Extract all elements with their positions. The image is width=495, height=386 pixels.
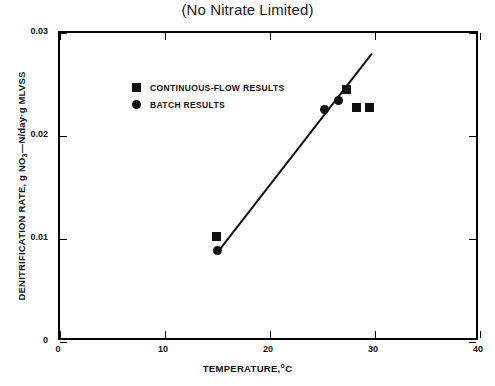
y-axis-label-prefix: DENITRIFICATION RATE, g NO (16, 157, 27, 300)
legend-item-continuous-flow: CONTINUOUS-FLOW RESULTS (132, 79, 284, 96)
y-tick-label: 0 (8, 335, 48, 345)
y-tick-label: 0.01 (8, 232, 48, 242)
y-axis-label: DENITRIFICATION RATE, g NO3—N/day·g MLVS… (16, 71, 29, 300)
x-tick-top (480, 33, 481, 40)
x-tick-label: 0 (38, 344, 78, 354)
data-point-square (342, 85, 351, 94)
square-marker-icon (132, 83, 141, 92)
y-tick (60, 342, 67, 343)
x-tick-label: 20 (248, 344, 288, 354)
data-point-circle (320, 105, 329, 114)
y-tick-label: 0.02 (8, 129, 48, 139)
chart-title: (No Nitrate Limited) (0, 1, 495, 18)
x-axis-label-text: TEMPERATURE, (203, 363, 281, 374)
circle-marker-icon (132, 100, 141, 109)
y-axis-label-suffix: —N/day·g MLVSS (16, 71, 27, 153)
data-point-square (212, 232, 221, 241)
chart-figure: (No Nitrate Limited) DENITRIFICATION RAT… (0, 0, 495, 386)
x-tick-label: 30 (353, 344, 393, 354)
x-tick-label: 40 (458, 344, 495, 354)
legend-label: CONTINUOUS-FLOW RESULTS (150, 83, 284, 93)
plot-area: CONTINUOUS-FLOW RESULTS BATCH RESULTS (58, 31, 478, 340)
legend: CONTINUOUS-FLOW RESULTS BATCH RESULTS (132, 79, 284, 113)
y-axis-label-container: DENITRIFICATION RATE, g NO3—N/day·g MLVS… (12, 31, 32, 340)
y-tick-label: 0.03 (8, 26, 48, 36)
x-axis-label-unit: C (285, 363, 292, 374)
legend-item-batch: BATCH RESULTS (132, 96, 284, 113)
x-tick-label: 10 (143, 344, 183, 354)
data-point-circle (213, 246, 222, 255)
y-tick-right (469, 342, 476, 343)
data-point-square (365, 103, 374, 112)
x-tick (480, 331, 481, 338)
legend-label: BATCH RESULTS (150, 100, 225, 110)
x-axis-label: TEMPERATURE,oC (0, 362, 495, 374)
data-point-square (352, 103, 361, 112)
